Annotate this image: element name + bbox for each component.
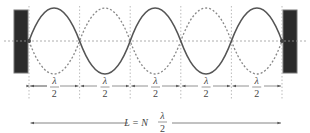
right-node bbox=[280, 39, 284, 43]
segment-4-denominator: 2 bbox=[204, 88, 209, 99]
segment-1-numerator: λ bbox=[51, 75, 57, 86]
left-node bbox=[27, 39, 31, 43]
total-length-dimension: L = N λ 2 bbox=[31, 110, 282, 133]
segment-1-denominator: 2 bbox=[52, 88, 57, 99]
segment-4-numerator: λ bbox=[203, 75, 209, 86]
segment-5-numerator: λ bbox=[254, 75, 260, 86]
length-formula-lhs: L = N bbox=[123, 117, 149, 128]
standing-wave-diagram: λ 2 λ 2 λ 2 λ 2 λ 2 L = N λ 2 bbox=[0, 0, 310, 133]
segment-5-denominator: 2 bbox=[254, 88, 259, 99]
length-formula-numerator: λ bbox=[159, 110, 165, 121]
segment-3-denominator: 2 bbox=[153, 88, 158, 99]
segment-labels: λ 2 λ 2 λ 2 λ 2 λ 2 bbox=[50, 75, 261, 99]
segment-2-denominator: 2 bbox=[102, 88, 107, 99]
right-wall bbox=[283, 10, 297, 73]
segment-3-numerator: λ bbox=[152, 75, 158, 86]
left-wall bbox=[14, 10, 28, 73]
length-formula-denominator: 2 bbox=[160, 123, 165, 133]
segment-2-numerator: λ bbox=[102, 75, 108, 86]
